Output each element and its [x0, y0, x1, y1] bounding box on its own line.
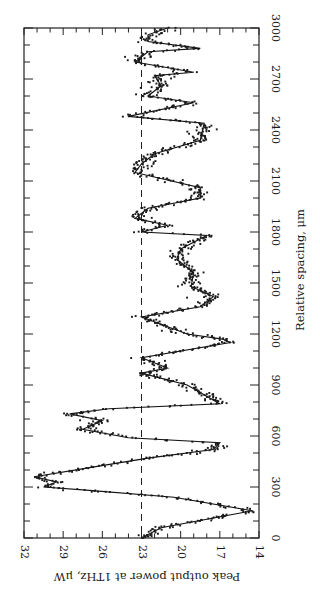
data-point — [164, 439, 166, 441]
data-point — [197, 273, 199, 275]
data-point — [154, 377, 156, 379]
data-point — [76, 470, 78, 472]
data-point — [181, 46, 183, 48]
data-point — [99, 420, 101, 422]
data-point — [195, 279, 197, 281]
data-point — [97, 430, 99, 432]
data-point — [161, 529, 163, 531]
data-point — [147, 168, 149, 170]
data-point — [196, 286, 198, 288]
data-point — [154, 220, 156, 222]
data-point — [183, 332, 185, 334]
data-point — [199, 452, 201, 454]
data-point — [133, 231, 135, 233]
data-point — [203, 193, 205, 195]
data-point — [207, 299, 209, 301]
data-point — [144, 206, 146, 208]
spacing-tick-label: 900 — [269, 375, 282, 396]
data-point — [169, 255, 171, 257]
data-point — [170, 98, 172, 100]
data-point — [149, 210, 151, 212]
data-point — [179, 120, 181, 122]
data-point — [219, 339, 221, 341]
data-point — [138, 231, 140, 233]
data-point — [148, 36, 150, 38]
data-point — [143, 38, 145, 40]
data-point — [177, 256, 179, 258]
data-point — [226, 514, 228, 516]
data-point — [215, 397, 217, 399]
data-point — [180, 44, 182, 46]
data-point — [209, 292, 211, 294]
data-point — [206, 127, 208, 129]
data-point — [87, 425, 89, 427]
data-point — [175, 351, 177, 353]
data-point — [245, 511, 247, 513]
data-point — [157, 97, 159, 99]
data-point — [213, 446, 215, 448]
data-point — [175, 523, 177, 525]
data-point — [62, 487, 64, 489]
data-point — [155, 160, 157, 162]
data-point — [155, 153, 157, 155]
data-point — [203, 272, 205, 274]
data-point — [142, 372, 144, 374]
data-point — [147, 316, 149, 318]
data-point — [145, 33, 147, 35]
data-point — [172, 255, 174, 257]
data-point — [187, 521, 189, 523]
data-point — [153, 42, 155, 44]
data-point — [172, 105, 174, 107]
data-point — [210, 520, 212, 522]
data-point — [145, 375, 147, 377]
data-point — [76, 488, 78, 490]
data-point — [147, 40, 149, 42]
data-point — [153, 77, 155, 79]
data-point — [192, 276, 194, 278]
data-point — [112, 408, 114, 410]
data-point — [182, 179, 184, 181]
data-point — [153, 155, 155, 157]
data-point — [209, 395, 211, 397]
data-point — [125, 436, 127, 438]
data-point — [141, 36, 143, 38]
data-point — [186, 297, 188, 299]
data-point — [157, 92, 159, 94]
data-point — [198, 48, 200, 50]
data-point — [166, 85, 168, 87]
data-point — [165, 364, 167, 366]
data-point — [156, 455, 158, 457]
data-point — [159, 222, 161, 224]
data-point — [176, 263, 178, 265]
data-point — [166, 325, 168, 327]
data-point — [185, 499, 187, 501]
data-point — [137, 41, 139, 43]
data-point — [156, 30, 158, 32]
data-point — [191, 268, 193, 270]
data-point — [127, 59, 129, 61]
data-point — [170, 250, 172, 252]
data-point — [196, 500, 198, 502]
data-point — [196, 453, 198, 455]
data-point — [162, 149, 164, 151]
data-point — [252, 511, 254, 513]
data-point — [182, 385, 184, 387]
data-point — [217, 400, 219, 402]
data-point — [179, 525, 181, 527]
data-point — [92, 421, 94, 423]
data-point — [185, 280, 187, 282]
data-point — [223, 447, 225, 449]
data-point — [209, 502, 211, 504]
data-point — [158, 152, 160, 154]
data-point — [153, 368, 155, 370]
data-point — [76, 413, 78, 415]
data-point — [191, 195, 193, 197]
data-point — [45, 485, 47, 487]
data-point — [215, 399, 217, 401]
data-point — [143, 228, 145, 230]
data-point — [154, 75, 156, 77]
data-point — [155, 319, 157, 321]
data-point — [168, 43, 170, 45]
data-point — [198, 281, 200, 283]
data-point — [180, 201, 182, 203]
